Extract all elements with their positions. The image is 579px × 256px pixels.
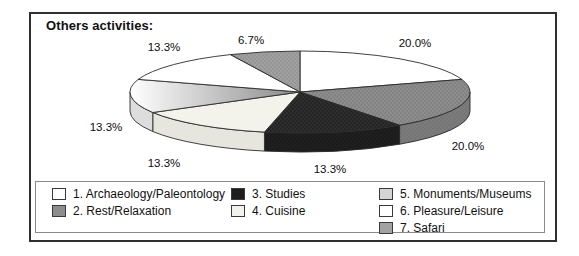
legend-item-cuisine: 4. Cuisine: [231, 203, 305, 219]
legend-swatch-cuisine: [231, 205, 245, 217]
legend-item-pleasure: 6. Pleasure/Leisure: [379, 203, 531, 219]
slice-label-archaeology: 20.0%: [399, 37, 432, 49]
slice-label-safari: 6.7%: [238, 34, 264, 46]
slice-label-rest: 20.0%: [452, 140, 485, 152]
legend-label-studies: 3. Studies: [252, 187, 305, 201]
legend-box: 1. Archaeology/Paleontology 2. Rest/Rela…: [35, 181, 545, 233]
legend-column-3: 5. Monuments/Museums 6. Pleasure/Leisure…: [379, 186, 531, 237]
legend-item-studies: 3. Studies: [231, 186, 305, 202]
legend-label-archaeology: 1. Archaeology/Paleontology: [73, 187, 225, 201]
legend-swatch-studies: [231, 188, 245, 200]
chart-figure: Others activities: 20.0% 20.0% 13.3% 13.…: [0, 0, 579, 256]
legend-label-monuments: 5. Monuments/Museums: [400, 187, 531, 201]
slice-label-studies: 13.3%: [314, 163, 347, 175]
legend-label-safari: 7. Safari: [400, 221, 445, 235]
legend-item-archaeology: 1. Archaeology/Paleontology: [52, 186, 225, 202]
legend-swatch-pleasure: [379, 205, 393, 217]
legend-column-1: 1. Archaeology/Paleontology 2. Rest/Rela…: [52, 186, 225, 220]
legend-label-cuisine: 4. Cuisine: [252, 204, 305, 218]
legend-swatch-archaeology: [52, 188, 66, 200]
legend-label-pleasure: 6. Pleasure/Leisure: [400, 204, 503, 218]
legend-item-rest: 2. Rest/Relaxation: [52, 203, 225, 219]
legend-item-monuments: 5. Monuments/Museums: [379, 186, 531, 202]
legend-column-2: 3. Studies 4. Cuisine: [231, 186, 305, 220]
legend-swatch-safari: [379, 222, 393, 234]
legend-label-rest: 2. Rest/Relaxation: [73, 204, 171, 218]
slice-label-cuisine: 13.3%: [148, 157, 181, 169]
legend-item-safari: 7. Safari: [379, 220, 531, 236]
legend-swatch-monuments: [379, 188, 393, 200]
slice-label-monuments: 13.3%: [90, 121, 123, 133]
legend-swatch-rest: [52, 205, 66, 217]
slice-label-pleasure: 13.3%: [148, 41, 181, 53]
